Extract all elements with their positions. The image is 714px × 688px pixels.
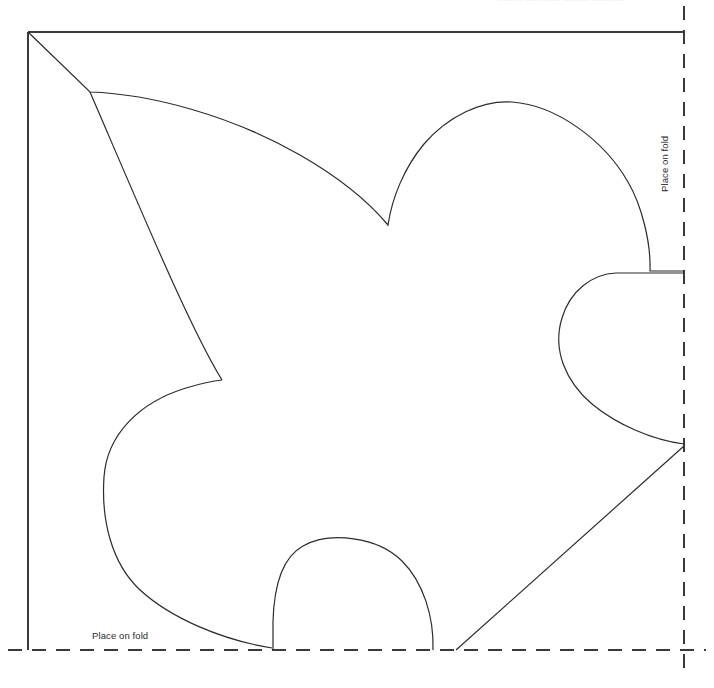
leaf-cut-outline — [28, 32, 684, 271]
cut-line-group — [28, 32, 684, 650]
frame-fold-edges — [8, 6, 706, 672]
fold-label-bottom: Place on fold — [92, 630, 148, 641]
frame-solid-edges — [28, 32, 684, 650]
leaf-cut-outline-right — [559, 273, 684, 444]
leaf-cut-outline-left — [104, 380, 272, 648]
leaf-cut-bottom-arch — [273, 538, 433, 650]
template-canvas: ………… …… ……… ………… …………… Place on fold Pla… — [0, 0, 714, 688]
pattern-drawing — [0, 0, 714, 688]
leaf-cut-inner-vein-edge — [90, 92, 222, 380]
fold-label-right: Place on fold — [659, 136, 670, 192]
leaf-cut-diagonal — [456, 446, 684, 650]
